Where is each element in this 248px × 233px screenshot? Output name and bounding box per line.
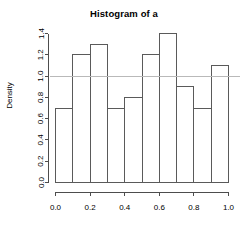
histogram-bar bbox=[90, 44, 107, 182]
y-axis-tick-label: 1.0 bbox=[37, 70, 46, 82]
x-axis-tick-label: 1.0 bbox=[223, 203, 235, 212]
x-axis-tick-label: 0.4 bbox=[119, 203, 131, 212]
x-axis-tick-label: 0.0 bbox=[50, 203, 62, 212]
y-axis-tick-label: 0.4 bbox=[37, 134, 46, 146]
histogram-bar bbox=[142, 55, 159, 183]
histogram-bar bbox=[177, 87, 194, 183]
y-axis-tick-label: 0.8 bbox=[37, 91, 46, 103]
x-axis-tick-label: 0.2 bbox=[85, 203, 97, 212]
y-axis-tick-label: 1.2 bbox=[37, 49, 46, 61]
plot-canvas: 0.00.20.40.60.81.01.21.4 0.00.20.40.60.8… bbox=[0, 0, 248, 233]
histogram-bars bbox=[56, 34, 229, 183]
y-axis-tick-label: 0.6 bbox=[37, 113, 46, 125]
y-axis-tick-label: 0.0 bbox=[37, 176, 46, 188]
x-axis: 0.00.20.40.60.81.0 bbox=[50, 192, 235, 212]
histogram-bar bbox=[159, 34, 176, 183]
y-axis-tick-label: 0.2 bbox=[37, 155, 46, 167]
y-axis: 0.00.20.40.60.81.01.21.4 bbox=[37, 27, 49, 188]
x-axis-tick-label: 0.6 bbox=[154, 203, 166, 212]
x-axis-tick-label: 0.8 bbox=[188, 203, 200, 212]
histogram-bar bbox=[194, 108, 211, 183]
y-axis-tick-label: 1.4 bbox=[37, 27, 46, 39]
histogram-plot: Histogram of a Density 0.00.20.40.60.81.… bbox=[0, 0, 248, 233]
histogram-bar bbox=[107, 108, 124, 183]
histogram-bar bbox=[56, 108, 73, 183]
histogram-bar bbox=[125, 97, 142, 182]
histogram-bar bbox=[211, 65, 228, 182]
histogram-bar bbox=[73, 55, 90, 183]
